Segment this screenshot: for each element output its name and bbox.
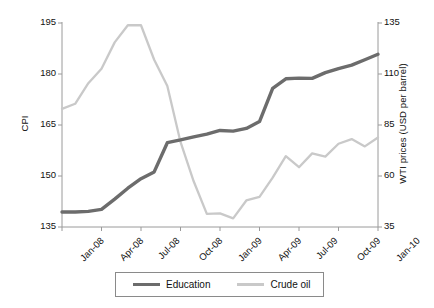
legend-label-education: Education — [166, 279, 210, 290]
legend-label-crude-oil: Crude oil — [270, 279, 310, 290]
series-lines — [62, 25, 378, 218]
legend-item-crude-oil: Crude oil — [237, 279, 310, 290]
legend-item-education: Education — [133, 279, 210, 290]
legend-swatch-education-icon — [133, 283, 160, 286]
chart-legend: Education Crude oil — [115, 272, 324, 297]
plot-area — [0, 0, 434, 308]
chart-figure: CPI WTI prices (USD per barrel) 13515016… — [0, 0, 434, 308]
series-line-crude-oil — [62, 25, 378, 218]
tick-marks — [58, 23, 382, 231]
legend-swatch-crude-oil-icon — [237, 283, 264, 285]
series-line-education — [62, 54, 378, 212]
